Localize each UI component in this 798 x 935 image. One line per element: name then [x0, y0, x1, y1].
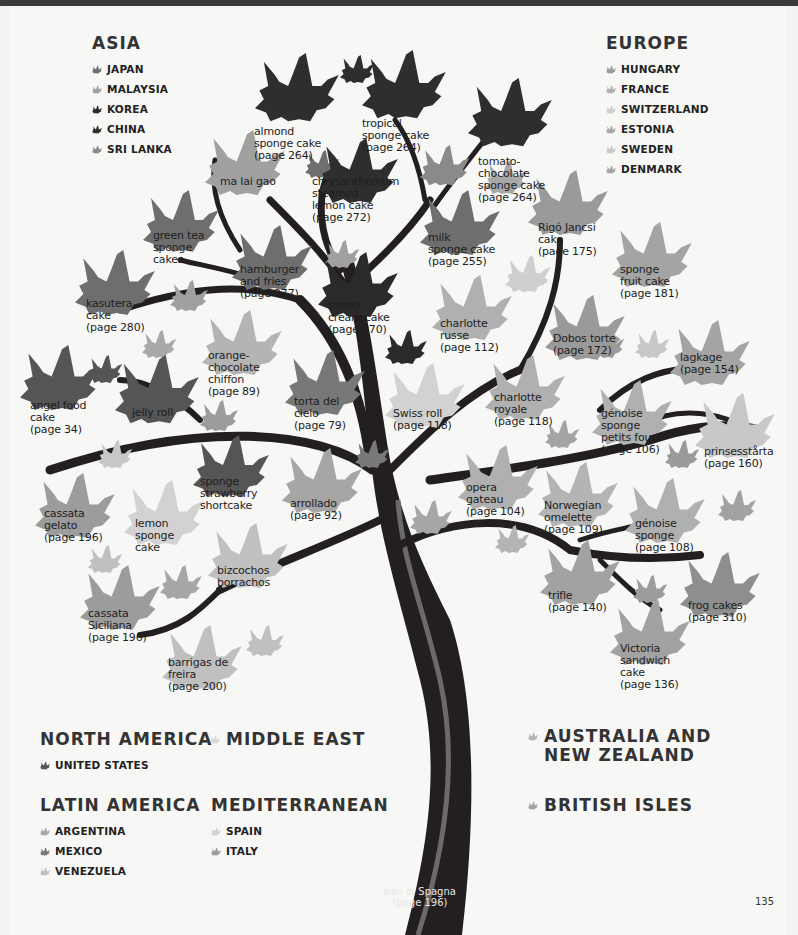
legend-item-japan: JAPAN [92, 59, 172, 79]
legend-item-label: ESTONIA [621, 123, 674, 135]
leaf-label-torta: torta del cielo (page 79) [294, 396, 346, 432]
legend-british-isles: BRITISH ISLES [528, 796, 693, 821]
legend-item-label: HUNGARY [621, 63, 680, 75]
legend-item-label: ARGENTINA [55, 825, 126, 837]
leaf-tomato [468, 78, 552, 146]
legend-title: EUROPE [606, 34, 709, 53]
leaf-label-charlotte_royale: charlotte royale (page 118) [494, 392, 553, 428]
leaf-icon [92, 65, 102, 74]
legend-item-estonia: ESTONIA [606, 119, 709, 139]
leaf-icon [92, 145, 102, 154]
leaf-tropical [362, 50, 446, 118]
legend-item-italy: ITALY [211, 841, 389, 861]
leaf-icon [92, 105, 102, 114]
legend-middle-east: MIDDLE EAST [210, 730, 365, 755]
legend-title: NORTH AMERICA [40, 730, 212, 749]
leaf-label-sponge_fruit: sponge fruit cake (page 181) [620, 264, 679, 300]
leaf-label-strawberry: sponge strawberry shortcake [200, 476, 257, 512]
trunk-label: pan di Spagna (page 196) [384, 886, 456, 908]
legend-item-malaysia: MALAYSIA [92, 79, 172, 99]
leaf-label-frog: frog cakes (page 310) [688, 600, 747, 624]
legend-title: MEDITERRANEAN [211, 796, 389, 815]
legend-title: AUSTRALIA AND NEW ZEALAND [544, 727, 711, 765]
legend-asia: ASIA JAPANMALAYSIAKOREACHINASRI LANKA [92, 34, 172, 159]
legend-item-united-states: UNITED STATES [40, 755, 212, 775]
leaf-icon [211, 847, 221, 856]
leaf-icon [92, 85, 102, 94]
leaf-icon [606, 145, 616, 154]
legend-list: JAPANMALAYSIAKOREACHINASRI LANKA [92, 59, 172, 159]
leaf-almond [255, 53, 339, 121]
leaf-icon [606, 65, 616, 74]
leaf-label-cassata_gelato: cassata gelato (page 196) [44, 508, 103, 544]
legend-item-mexico: MEXICO [40, 841, 200, 861]
legend-item-spain: SPAIN [211, 821, 389, 841]
leaf-label-tomato: tomato- chocolate sponge cake (page 264) [478, 156, 545, 204]
leaf-icon [92, 125, 102, 134]
legend-item-label: SPAIN [226, 825, 262, 837]
legend-title: BRITISH ISLES [544, 796, 693, 815]
legend-item-label: JAPAN [107, 63, 144, 75]
leaf-label-lemon: lemon sponge cake [135, 518, 174, 554]
legend-title: MIDDLE EAST [226, 730, 365, 749]
legend-item-label: KOREA [107, 103, 148, 115]
leaf-label-norwegian: Norwegian omelette (page 109) [544, 500, 603, 536]
legend-item-label: SWEDEN [621, 143, 673, 155]
leaf-icon [528, 732, 538, 741]
leaf-label-orange_choc: orange- chocolate chiffon (page 89) [208, 350, 260, 398]
legend-mediterranean: MEDITERRANEAN SPAINITALY [211, 796, 389, 861]
legend-item-label: ITALY [226, 845, 258, 857]
leaf-icon [606, 165, 616, 174]
legend-item-label: UNITED STATES [55, 759, 149, 771]
page-number: 135 [755, 896, 774, 907]
leaf-icon [211, 827, 221, 836]
leaf-label-angel: angel food cake (page 34) [30, 400, 86, 436]
legend-item-label: CHINA [107, 123, 145, 135]
legend-item-label: SRI LANKA [107, 143, 172, 155]
leaf-label-rigo: Rigó Jancsi cake (page 175) [538, 222, 597, 258]
leaf-label-almond: almond sponge cake (page 264) [254, 126, 321, 162]
legend-item-label: SWITZERLAND [621, 103, 709, 115]
leaf-label-barrigas: barrigas de freira (page 200) [168, 657, 228, 693]
leaf-label-genoise: génoise sponge (page 108) [635, 518, 694, 554]
leaf-label-opera: opera gateau (page 104) [466, 482, 525, 518]
legend-list: HUNGARYFRANCESWITZERLANDESTONIASWEDENDEN… [606, 59, 709, 179]
legend-item-label: DENMARK [621, 163, 682, 175]
leaf-icon [210, 735, 220, 744]
legend-list: ARGENTINAMEXICOVENEZUELA [40, 821, 200, 881]
legend-item-china: CHINA [92, 119, 172, 139]
legend-latin-america: LATIN AMERICA ARGENTINAMEXICOVENEZUELA [40, 796, 200, 881]
legend-item-label: MALAYSIA [107, 83, 168, 95]
leaf-label-kasutera: kasutera cake (page 280) [86, 298, 145, 334]
legend-title: LATIN AMERICA [40, 796, 200, 815]
leaf-label-bizcochos: bizcochos borrachos [217, 565, 270, 589]
legend-item-switzerland: SWITZERLAND [606, 99, 709, 119]
leaf-label-greentea: green tea sponge cakes [153, 230, 204, 266]
leaf-label-jelly: jelly roll [132, 407, 173, 419]
legend-item-argentina: ARGENTINA [40, 821, 200, 841]
leaf-label-tropical: tropical sponge cake (page 264) [362, 118, 429, 154]
legend-item-france: FRANCE [606, 79, 709, 99]
legend-australia-nz: AUSTRALIA AND NEW ZEALAND [528, 727, 711, 771]
leaf-label-swiss: Swiss roll (page 118) [393, 408, 452, 432]
leaf-icon [606, 105, 616, 114]
legend-item-denmark: DENMARK [606, 159, 709, 179]
leaf-label-chrysanthemum: chrysanthemum steamed lemon cake (page 2… [312, 176, 399, 224]
leaf-label-hamburger: hamburger and fries (page 277) [240, 264, 299, 300]
legend-north-america: NORTH AMERICA UNITED STATES [40, 730, 212, 775]
leaf-label-milk: milk sponge cake (page 255) [428, 232, 495, 268]
leaf-label-prinsess: prinsesstårta (page 160) [704, 446, 774, 470]
leaf-label-charlotte_russe: charlotte russe (page 112) [440, 318, 499, 354]
leaf-icon [40, 761, 50, 770]
leaf-label-cassata_sic: cassata Siciliana (page 196) [88, 608, 147, 644]
legend-europe: EUROPE HUNGARYFRANCESWITZERLANDESTONIASW… [606, 34, 709, 179]
leaf-icon [606, 125, 616, 134]
legend-list: SPAINITALY [211, 821, 389, 861]
legend-item-label: MEXICO [55, 845, 102, 857]
leaf-icon [40, 827, 50, 836]
leaf-icon [40, 847, 50, 856]
leaf-label-saeng: saeng cream cake (page 270) [328, 300, 390, 336]
legend-item-sri-lanka: SRI LANKA [92, 139, 172, 159]
leaf-label-trifle: trifle (page 140) [548, 590, 607, 614]
leaf-label-arrollado: arrollado (page 92) [290, 498, 342, 522]
